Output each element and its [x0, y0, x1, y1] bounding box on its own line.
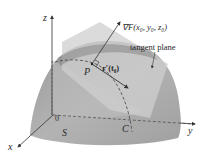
curve-label: C	[122, 123, 129, 134]
surface-label: S	[62, 127, 67, 138]
tangent-vector-label: r′(t₀)	[102, 63, 119, 73]
x-axis-label: x	[7, 141, 13, 152]
origin-label: 0	[55, 114, 59, 123]
point-p	[91, 63, 93, 65]
point-label: P	[83, 66, 90, 77]
z-axis-label: z	[42, 12, 47, 23]
tangent-plane-diagram: z x y 0 S C P ∇F(x₀, y₀, z₀) r′(t₀) tang…	[0, 0, 206, 162]
tangent-plane-label: tangent plane	[130, 42, 176, 52]
y-axis-label: y	[187, 125, 193, 136]
y-axis-end	[180, 123, 195, 124]
gradient-label: ∇F(x₀, y₀, z₀)	[122, 22, 167, 32]
